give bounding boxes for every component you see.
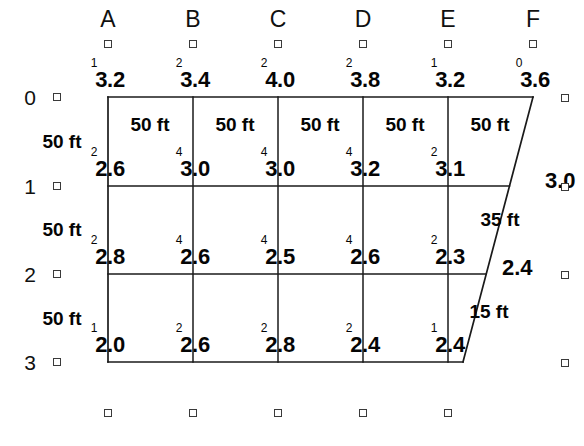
horizontal-dimension-2: 50 ft (300, 115, 339, 134)
horizontal-dimension-3: 50 ft (385, 115, 424, 134)
bottom-marker-2 (274, 409, 282, 417)
node-sup-B0: 2 (176, 57, 183, 69)
node-value-A1: 2.6 (95, 158, 125, 180)
node-sup-A0: 1 (91, 57, 98, 69)
bottom-marker-0 (104, 409, 112, 417)
right-edge-marker-3 (561, 359, 569, 367)
column-label-B: B (185, 8, 200, 31)
node-sup-D3: 2 (346, 322, 353, 334)
right-edge-marker-0 (561, 94, 569, 102)
row-label-1: 1 (24, 176, 36, 197)
node-sup-C1: 4 (261, 146, 268, 158)
node-value-F0: 3.6 (520, 69, 550, 91)
column-label-E: E (440, 8, 455, 31)
bottom-marker-1 (189, 409, 197, 417)
row-label-2: 2 (24, 264, 36, 285)
slant-dimension-0: 35 ft (480, 210, 519, 229)
node-sup-B3: 2 (176, 322, 183, 334)
column-marker-2 (274, 40, 282, 48)
bottom-marker-3 (359, 409, 367, 417)
horizontal-dimension-0: 50 ft (130, 115, 169, 134)
node-sup-D2: 4 (346, 234, 353, 246)
node-value-E2: 2.3 (435, 246, 465, 268)
node-sup-B1: 4 (176, 146, 183, 158)
node-value-D1: 3.2 (350, 158, 380, 180)
edge-value-1: 2.4 (502, 257, 533, 279)
right-edge-marker-2 (561, 271, 569, 279)
node-sup-D0: 2 (346, 57, 353, 69)
column-label-A: A (100, 8, 115, 31)
node-value-D0: 3.8 (350, 69, 380, 91)
vertical-dimension-2: 50 ft (42, 309, 81, 328)
slant-dimension-1: 15 ft (469, 302, 508, 321)
node-value-C1: 3.0 (265, 158, 295, 180)
node-sup-A3: 1 (91, 322, 98, 334)
horizontal-dimension-1: 50 ft (215, 115, 254, 134)
node-sup-F0: 0 (516, 57, 523, 69)
node-value-E1: 3.1 (435, 158, 465, 180)
bottom-marker-4 (444, 409, 452, 417)
column-marker-3 (359, 40, 367, 48)
node-sup-E1: 2 (431, 146, 438, 158)
row-label-3: 3 (24, 352, 36, 373)
node-sup-C0: 2 (261, 57, 268, 69)
node-sup-A1: 2 (91, 146, 98, 158)
column-label-C: C (270, 8, 287, 31)
node-value-B3: 2.6 (180, 334, 210, 356)
column-marker-0 (104, 40, 112, 48)
node-value-D3: 2.4 (350, 334, 380, 356)
node-sup-E3: 1 (431, 322, 438, 334)
node-value-A3: 2.0 (95, 334, 125, 356)
node-sup-D1: 4 (346, 146, 353, 158)
node-value-D2: 2.6 (350, 246, 380, 268)
node-value-C2: 2.5 (265, 246, 295, 268)
vertical-dimension-1: 50 ft (42, 220, 81, 239)
horizontal-dimension-4: 50 ft (470, 115, 509, 134)
column-label-F: F (526, 8, 540, 31)
node-sup-C2: 4 (261, 234, 268, 246)
column-marker-1 (189, 40, 197, 48)
node-value-B1: 3.0 (180, 158, 210, 180)
node-value-E3: 2.4 (435, 334, 465, 356)
column-marker-5 (529, 40, 537, 48)
diagram-canvas: ABCDEF01233.213.424.023.823.213.602.623.… (0, 0, 584, 446)
node-sup-E0: 1 (431, 57, 438, 69)
node-value-A2: 2.8 (95, 246, 125, 268)
node-sup-A2: 2 (91, 234, 98, 246)
node-value-B0: 3.4 (180, 69, 210, 91)
right-edge-marker-1 (561, 183, 569, 191)
node-value-C3: 2.8 (265, 334, 295, 356)
row-marker-2 (53, 270, 61, 278)
node-sup-C3: 2 (261, 322, 268, 334)
node-value-A0: 3.2 (95, 69, 125, 91)
node-value-C0: 4.0 (265, 69, 295, 91)
boundary-slant-edge (463, 97, 533, 362)
node-sup-E2: 2 (431, 234, 438, 246)
column-label-D: D (355, 8, 372, 31)
node-value-B2: 2.6 (180, 246, 210, 268)
row-marker-1 (53, 182, 61, 190)
node-value-E0: 3.2 (435, 69, 465, 91)
column-marker-4 (444, 40, 452, 48)
row-marker-0 (53, 93, 61, 101)
node-sup-B2: 4 (176, 234, 183, 246)
row-marker-3 (53, 358, 61, 366)
row-label-0: 0 (24, 87, 36, 108)
vertical-dimension-0: 50 ft (42, 132, 81, 151)
